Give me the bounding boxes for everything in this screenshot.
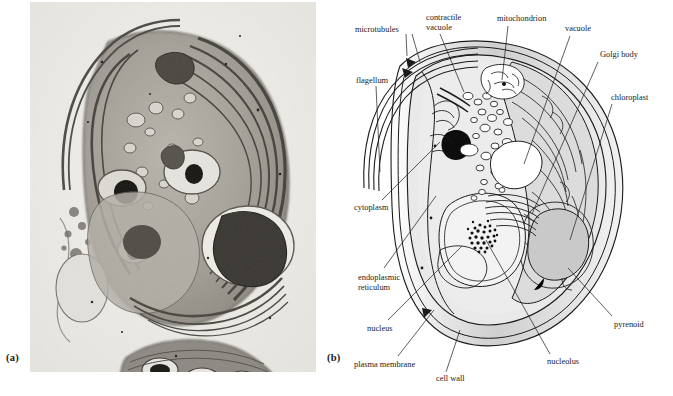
annotation-nucleolus: nucleolus bbox=[547, 357, 579, 367]
annotation-chloroplast: chloroplast bbox=[611, 93, 648, 103]
annotation-pyrenoid: pyrenoid bbox=[614, 320, 644, 330]
panel-label-a: (a) bbox=[6, 352, 19, 363]
panel-a-micrograph: (a) bbox=[0, 0, 336, 396]
figure-chlamydomonas-cell: (a) bbox=[0, 0, 673, 396]
annotation-flagellum: flagellum bbox=[356, 76, 388, 86]
panel-label-b: (b) bbox=[327, 352, 340, 363]
electron-micrograph-image bbox=[30, 2, 316, 372]
annotation-mitochondrion: mitochondrion bbox=[497, 14, 546, 24]
panel-b-diagram: microtubules contractile vacuole mitocho… bbox=[336, 0, 673, 396]
mitochondrion-region bbox=[481, 64, 524, 99]
annotation-endoplasmic-reticulum: endoplasmic reticulum bbox=[358, 273, 400, 292]
annotation-cytoplasm: cytoplasm bbox=[354, 203, 388, 213]
annotation-plasma-membrane: plasma membrane bbox=[354, 360, 415, 370]
annotation-nucleus: nucleus bbox=[367, 324, 393, 334]
micrograph-render bbox=[30, 2, 316, 372]
annotation-cell-wall: cell wall bbox=[436, 374, 465, 384]
annotation-vacuole: vacuole bbox=[565, 24, 591, 34]
annotation-contractile-vacuole: contractile vacuole bbox=[426, 13, 461, 32]
annotation-microtubules: microtubules bbox=[355, 25, 399, 35]
annotation-golgi-body: Golgi body bbox=[600, 50, 638, 60]
